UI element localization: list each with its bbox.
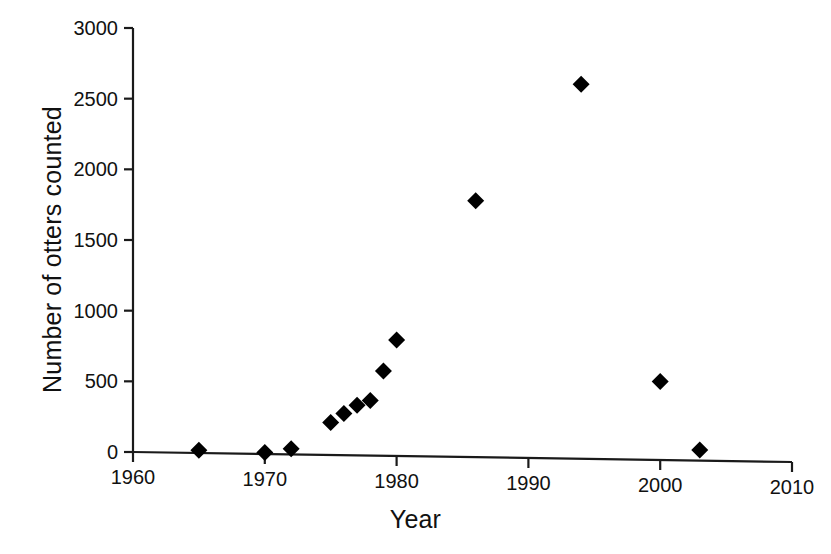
data-point xyxy=(467,192,484,209)
data-point xyxy=(190,442,207,459)
data-point-markers xyxy=(190,76,708,461)
data-point xyxy=(691,442,708,459)
y-tick-label: 2500 xyxy=(74,87,119,110)
x-tick-label: 1970 xyxy=(243,468,288,491)
x-tick-label: 1990 xyxy=(506,472,551,495)
x-tick-label: 1960 xyxy=(111,466,156,489)
x-tick-label: 1980 xyxy=(374,470,419,493)
data-point xyxy=(335,405,352,422)
y-tick-label: 3000 xyxy=(74,17,119,40)
axis-lines xyxy=(133,28,792,462)
x-tick-label: 2010 xyxy=(770,476,815,499)
data-point xyxy=(652,373,669,390)
data-point xyxy=(388,332,405,349)
data-point xyxy=(375,363,392,380)
data-point xyxy=(322,414,339,431)
y-tick-label: 1500 xyxy=(74,229,119,252)
y-tick-label: 500 xyxy=(85,370,118,393)
x-tick-label: 2000 xyxy=(638,474,683,497)
data-point xyxy=(573,76,590,93)
y-tick-label: 0 xyxy=(107,441,118,464)
scatter-chart-figure: Number of otters counted Year 0500100015… xyxy=(0,0,831,554)
y-tick-label: 1000 xyxy=(74,299,119,322)
data-point xyxy=(256,444,273,461)
tick-marks xyxy=(124,28,792,472)
y-tick-label: 2000 xyxy=(74,158,119,181)
x-axis-line xyxy=(133,452,792,462)
